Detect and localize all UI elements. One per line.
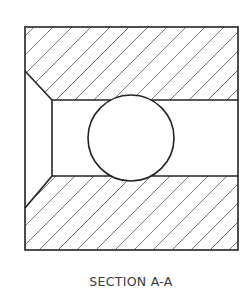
section-drawing — [0, 0, 250, 301]
chamfers — [25, 71, 52, 208]
ball — [88, 95, 174, 181]
section-label: SECTION A-A — [0, 274, 250, 289]
